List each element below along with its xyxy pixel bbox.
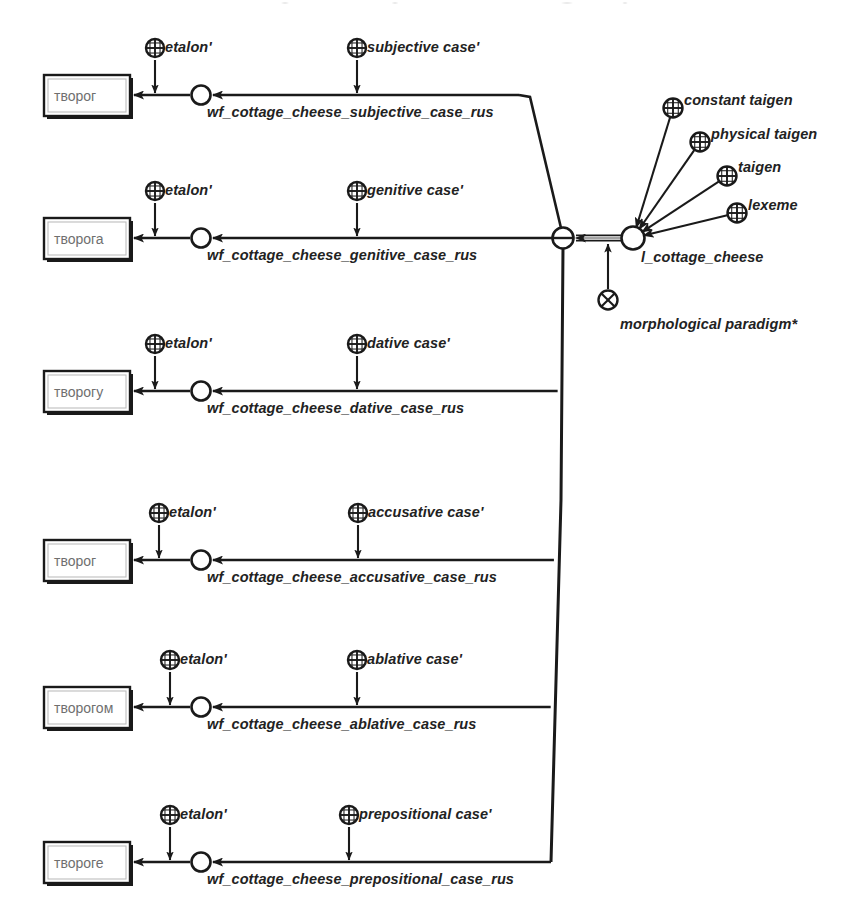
row-subjective-wf-label: wf_cottage_cheese_subjective_case_rus [207,105,494,120]
row-dative-wf-label: wf_cottage_cheese_dative_case_rus [207,401,464,416]
row-accusative-wordform-text: творог [54,554,96,568]
row-subjective-wordform-text: творог [54,89,96,103]
row-subjective-etalon-label: etalon' [165,40,212,55]
row-accusative-wf-label: wf_cottage_cheese_accusative_case_rus [207,570,497,585]
row-accusative-case-label: accusative case' [368,505,484,520]
row-accusative-wordform-node[interactable] [192,551,211,570]
attribute-label-3: lexeme [748,198,798,213]
row-dative-etalon-label: etalon' [165,336,212,351]
row-prepositional-wf-label: wf_cottage_cheese_prepositional_case_rus [207,872,514,887]
attribute-edge-0 [636,118,670,228]
row-genitive-etalon-label: etalon' [165,183,212,198]
trunk-vertical [551,248,563,862]
attribute-label-1: physical taigen [711,127,817,142]
row-ablative-case-label: ablative case' [367,652,462,667]
lexical-node[interactable] [622,227,645,250]
row-prepositional-etalon-label: etalon' [180,807,227,822]
attribute-edge-3 [644,215,728,235]
diagram-layer [44,39,747,886]
row-genitive-wordform-text: творога [54,232,104,246]
row-subjective-wordform-node[interactable] [192,86,211,105]
lexical-node-label: l_cottage_cheese [641,250,764,265]
row-prepositional-wordform-text: твороге [54,856,104,870]
row-subjective-case-label: subjective case' [367,40,479,55]
row-ablative-wordform-text: творогом [54,701,113,715]
row-accusative-etalon-label: etalon' [169,505,216,520]
row-dative-wordform-text: творогу [54,385,103,399]
branch-subjective [519,95,561,228]
attribute-label-0: constant taigen [684,93,793,108]
row-genitive-wordform-node[interactable] [192,229,211,248]
row-genitive-wf-label: wf_cottage_cheese_genitive_case_rus [207,248,477,263]
row-ablative-wf-label: wf_cottage_cheese_ablative_case_rus [207,717,477,732]
row-ablative-etalon-label: etalon' [180,652,227,667]
paradigm-marker-label: morphological paradigm* [620,317,797,332]
row-genitive-case-label: genitive case' [367,183,463,198]
row-prepositional-case-label: prepositional case' [359,807,492,822]
row-dative-wordform-node[interactable] [192,382,211,401]
row-dative-case-label: dative case' [367,336,450,351]
attribute-label-2: taigen [738,160,781,175]
row-prepositional-wordform-node[interactable] [192,853,211,872]
row-ablative-wordform-node[interactable] [192,698,211,717]
